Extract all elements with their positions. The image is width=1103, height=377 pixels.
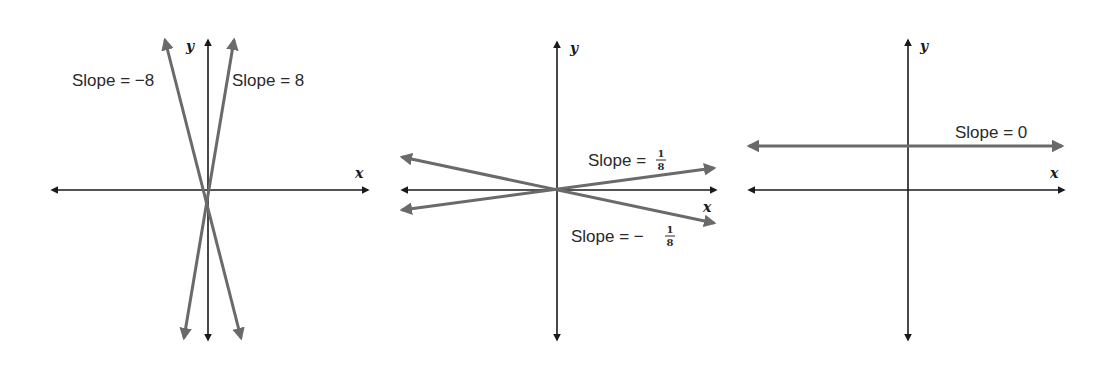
slope-label-pos-8: Slope = 8: [232, 71, 304, 90]
panel-shallow-slopes: y x Slope = 1 8 Slope = − 1 8: [402, 40, 716, 340]
slope-label-pos-1-8: Slope = 1 8: [588, 148, 666, 172]
line-slope-pos-8: [184, 40, 234, 338]
line-slope-neg-8: [165, 40, 241, 338]
y-axis-label: y: [185, 38, 195, 54]
y-axis-label: y: [569, 40, 579, 56]
svg-text:1: 1: [667, 224, 674, 235]
svg-text:8: 8: [667, 237, 674, 248]
svg-text:1: 1: [658, 148, 665, 159]
slope-label-neg-8: Slope = −8: [72, 71, 154, 90]
x-axis-label: x: [1049, 165, 1059, 181]
x-axis-label: x: [702, 199, 712, 215]
slope-label-0: Slope = 0: [955, 123, 1027, 142]
slope-label-neg-1-8: Slope = − 1 8: [571, 224, 675, 248]
svg-text:8: 8: [658, 161, 665, 172]
y-axis-label: y: [919, 38, 929, 54]
panel-steep-slopes: y x Slope = −8 Slope = 8: [52, 38, 368, 340]
panel-zero-slope: y x Slope = 0: [749, 38, 1064, 340]
svg-text:Slope = −: Slope = −: [571, 227, 644, 246]
x-axis-label: x: [354, 165, 364, 181]
slope-comparison-diagram: y x Slope = −8 Slope = 8 y x Slope = 1 8…: [0, 0, 1103, 377]
svg-text:Slope =: Slope =: [588, 151, 651, 170]
